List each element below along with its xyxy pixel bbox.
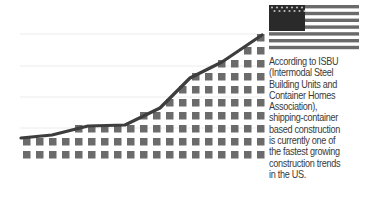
data-square — [231, 112, 239, 120]
data-square — [257, 99, 265, 107]
data-square — [101, 151, 109, 159]
data-square — [257, 86, 265, 94]
data-square — [114, 151, 122, 159]
caption-line: in the US. — [269, 169, 370, 180]
data-square — [231, 73, 239, 81]
data-square — [244, 99, 252, 107]
data-square — [218, 138, 226, 146]
data-square — [127, 151, 135, 159]
data-square — [192, 99, 200, 107]
data-square — [231, 86, 239, 94]
data-square — [75, 151, 83, 159]
data-square — [140, 125, 148, 133]
data-square — [218, 99, 226, 107]
data-square — [218, 151, 226, 159]
data-square — [218, 86, 226, 94]
data-square — [218, 73, 226, 81]
data-square — [231, 99, 239, 107]
data-square — [218, 112, 226, 120]
data-square — [140, 151, 148, 159]
data-square — [257, 112, 265, 120]
data-square — [244, 86, 252, 94]
data-square — [88, 151, 96, 159]
data-square — [244, 73, 252, 81]
data-square — [166, 112, 174, 120]
trend-line — [21, 35, 262, 138]
data-square — [23, 151, 31, 159]
data-square — [244, 151, 252, 159]
data-square — [127, 125, 135, 133]
data-square — [205, 138, 213, 146]
caption-text: According to ISBU (Intermodal Steel Buil… — [269, 56, 370, 180]
data-square — [179, 151, 187, 159]
data-square — [88, 138, 96, 146]
data-square — [36, 151, 44, 159]
us-flag-icon — [269, 5, 359, 51]
data-square — [114, 138, 122, 146]
data-square — [192, 112, 200, 120]
data-square — [257, 138, 265, 146]
data-square — [192, 125, 200, 133]
data-square — [244, 138, 252, 146]
data-square — [127, 138, 135, 146]
data-square — [179, 138, 187, 146]
data-square — [36, 138, 44, 146]
caption-line: (Intermodal Steel — [269, 67, 370, 78]
data-square — [140, 138, 148, 146]
pictogram-squares — [23, 34, 265, 159]
data-square — [75, 138, 83, 146]
data-square — [257, 47, 265, 55]
data-square — [153, 125, 161, 133]
data-square — [205, 151, 213, 159]
data-square — [231, 125, 239, 133]
data-square — [205, 73, 213, 81]
data-square — [257, 73, 265, 81]
data-square — [101, 138, 109, 146]
data-square — [192, 151, 200, 159]
data-square — [192, 138, 200, 146]
data-square — [166, 151, 174, 159]
data-square — [257, 60, 265, 68]
data-square — [205, 112, 213, 120]
data-square — [257, 125, 265, 133]
data-square — [153, 112, 161, 120]
data-square — [231, 60, 239, 68]
caption-line: the fastest growing — [269, 146, 370, 157]
data-square — [49, 138, 57, 146]
data-square — [179, 125, 187, 133]
data-square — [192, 86, 200, 94]
data-square — [231, 138, 239, 146]
data-square — [244, 60, 252, 68]
data-square — [49, 151, 57, 159]
data-square — [205, 99, 213, 107]
data-square — [205, 86, 213, 94]
data-square — [62, 151, 70, 159]
data-square — [179, 112, 187, 120]
data-square — [62, 138, 70, 146]
data-square — [179, 99, 187, 107]
data-square — [244, 112, 252, 120]
data-square — [244, 125, 252, 133]
data-square — [153, 151, 161, 159]
data-square — [205, 125, 213, 133]
data-square — [231, 151, 239, 159]
data-square — [153, 138, 161, 146]
data-square — [257, 151, 265, 159]
data-square — [166, 125, 174, 133]
data-square — [166, 138, 174, 146]
data-square — [218, 125, 226, 133]
